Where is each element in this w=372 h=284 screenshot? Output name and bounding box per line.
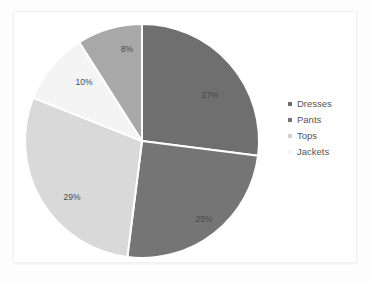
pie-slice-label-dresses-27: 27% (201, 90, 218, 100)
pie-slice-label-pants-25: 25% (195, 214, 212, 224)
legend-marker-icon (288, 118, 292, 122)
legend-item-jackets[interactable]: Jackets (288, 144, 368, 159)
legend-item-label: Pants (297, 115, 321, 125)
plot-area: 27%25%29%10%8% DressesPantsTopsJackets (14, 12, 356, 262)
legend-marker-icon (288, 134, 292, 138)
pie-slice-label-tops-29: 29% (63, 192, 80, 202)
chart-legend: DressesPantsTopsJackets (288, 96, 368, 160)
legend-item-tops[interactable]: Tops (288, 128, 368, 143)
legend-item-label: Tops (297, 131, 317, 141)
pie-chart-screenshot: 27%25%29%10%8% DressesPantsTopsJackets (0, 0, 372, 284)
pie-slice-pants-25[interactable] (127, 141, 258, 258)
legend-item-label: Jackets (297, 147, 329, 157)
pie-slice-label-jackets-10: 10% (75, 77, 92, 87)
pie-svg: 27%25%29%10%8% (14, 12, 289, 262)
chart-frame: 27%25%29%10%8% DressesPantsTopsJackets (13, 11, 357, 263)
legend-item-dresses[interactable]: Dresses (288, 96, 368, 111)
pie-slices-group (25, 24, 259, 258)
pie-chart: 27%25%29%10%8% (14, 12, 289, 262)
legend-marker-icon (288, 102, 292, 106)
legend-item-label: Dresses (297, 99, 332, 109)
pie-slice-label-jackets-8: 8% (121, 44, 134, 54)
legend-marker-icon (288, 150, 292, 154)
legend-item-pants[interactable]: Pants (288, 112, 368, 127)
